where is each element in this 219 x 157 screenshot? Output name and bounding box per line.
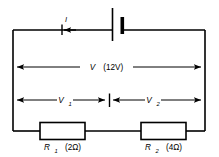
v2-subscript: 2	[155, 101, 160, 107]
battery-negative-plate	[121, 17, 125, 34]
partial-voltage-measures	[17, 94, 201, 108]
circuit-diagram: I V (12V) V 1 V 2 R 1 (2Ω) R 2 (4Ω)	[0, 0, 219, 157]
total-voltage-label: V (12V)	[90, 56, 124, 73]
resistor-1	[40, 123, 85, 140]
v1-subscript: 1	[68, 101, 71, 107]
resistor-2-body	[141, 123, 186, 140]
circuit-loop-wires	[13, 30, 205, 131]
total-voltage-symbol: V	[90, 63, 97, 72]
v1-label: V 1	[58, 89, 71, 107]
resistor-1-body	[40, 123, 85, 140]
resistor-1-symbol: R	[44, 143, 50, 152]
current-indicator	[62, 25, 76, 36]
v1-symbol: V	[58, 96, 65, 105]
resistor-2-subscript: 2	[155, 148, 160, 154]
current-label: I	[65, 15, 67, 24]
total-voltage-value: (12V)	[103, 63, 123, 72]
resistor-2-value: (4Ω)	[166, 143, 182, 152]
v2-symbol: V	[146, 96, 153, 105]
battery-symbol	[113, 8, 125, 41]
resistor-1-value: (2Ω)	[65, 143, 81, 152]
circuit-diagram-canvas: I V (12V) V 1 V 2 R 1 (2Ω) R 2 (4Ω)	[0, 0, 219, 157]
resistor-2-symbol: R	[145, 143, 151, 152]
v2-label: V 2	[146, 89, 160, 107]
resistor-1-subscript: 1	[55, 148, 58, 154]
resistor-2	[141, 123, 186, 140]
